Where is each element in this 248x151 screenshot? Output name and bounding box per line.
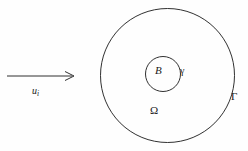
- label-outer-boundary-gamma-capital: Γ: [231, 91, 237, 102]
- figure-canvas: B γ Ω Γ ui: [0, 0, 248, 151]
- label-incident-field-subscript: i: [37, 89, 39, 98]
- inner-boundary-circle: [146, 57, 181, 92]
- label-incident-field: ui: [32, 86, 39, 97]
- outer-boundary-circle: [101, 9, 235, 143]
- label-annulus-domain-omega: Ω: [150, 105, 158, 116]
- label-inner-domain-B: B: [155, 65, 162, 76]
- diagram-svg: [0, 0, 248, 151]
- label-inner-boundary-gamma: γ: [180, 66, 184, 76]
